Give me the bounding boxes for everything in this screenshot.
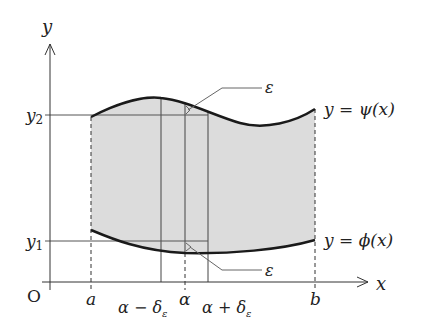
lower-curve-label: y = ϕ(x) — [323, 230, 393, 250]
origin-label: O — [27, 286, 41, 306]
epsilon-top-label: ε — [265, 78, 274, 97]
tick-alpha-plus-delta-label: α + δε — [202, 298, 251, 319]
y1-label: y1 — [25, 231, 43, 253]
upper-curve-label: y = ψ(x) — [323, 99, 395, 119]
tick-b-label: b — [310, 289, 321, 309]
x-axis-label: x — [376, 273, 386, 294]
epsilon-bottom-label: ε — [265, 261, 274, 280]
tick-alpha-label: α — [179, 289, 191, 309]
region-diagram: y x O y2 y1 a α − δε α α + δε b y = ψ(x)… — [0, 0, 427, 333]
epsilon-top-leader — [188, 88, 262, 110]
tick-alpha-minus-delta-label: α − δε — [118, 298, 167, 319]
shaded-region — [91, 98, 315, 254]
tick-a-label: a — [86, 289, 96, 309]
y-axis-label: y — [41, 16, 53, 37]
y2-label: y2 — [25, 105, 43, 127]
